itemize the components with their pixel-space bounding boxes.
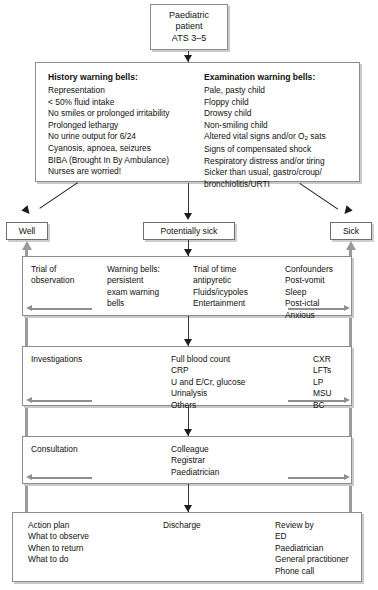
warning-bells-panel: History warning bells: Representation < … xyxy=(35,62,360,182)
arrowhead-top-to-warnings-icon xyxy=(184,55,192,62)
stage-line: antipyretic xyxy=(193,275,288,286)
stage2-exit-left-arrow-icon xyxy=(26,397,32,403)
stage-investigations-box: Investigations Full blood count CRP U an… xyxy=(22,346,352,406)
discharge-column: Discharge xyxy=(163,520,273,531)
examination-item: Drowsy child xyxy=(204,108,364,120)
review-by-column: Review by ED Paediatrician General pract… xyxy=(275,520,378,577)
stage-line: U and E/Cr, glucose xyxy=(171,377,311,388)
stage-line: Confounders xyxy=(285,264,355,275)
stage-line: General practitioner xyxy=(275,554,378,565)
examination-warning-bells-title: Examination warning bells: xyxy=(204,71,364,83)
history-warning-bells-column: History warning bells: Representation < … xyxy=(48,71,223,178)
history-item: Representation xyxy=(48,85,223,97)
stage-line: Trial of xyxy=(31,264,109,275)
stage-observation-column-4: Confounders Post-vomit Sleep Post-ictal … xyxy=(285,264,355,321)
top-node-line1: Paediatric xyxy=(169,10,209,22)
top-node-line3: ATS 3–5 xyxy=(172,33,206,45)
stage-investigations-column-1: Investigations xyxy=(31,354,141,365)
examination-item-o2-sats: Altered vital signs and/or O2 sats xyxy=(204,131,364,144)
node-potentially-sick-label: Potentially sick xyxy=(144,223,234,239)
stage-line: Post-vomit xyxy=(285,275,355,286)
stage-consultation-column-1: Consultation xyxy=(31,444,141,455)
stage1-exit-left-arrow-icon xyxy=(26,305,32,311)
stage1-exit-right-arrow-icon xyxy=(344,305,350,311)
arrowhead-pot-to-stage1-icon xyxy=(184,249,192,256)
node-potentially-sick[interactable]: Potentially sick xyxy=(143,222,235,240)
arrowhead-to-potentially-sick-icon xyxy=(184,213,192,220)
examination-item: bronchiolitis/URTI xyxy=(204,179,364,191)
node-well-label: Well xyxy=(7,223,47,239)
stage-line: MSU xyxy=(313,388,363,399)
stage1-exit-left-line xyxy=(30,308,92,310)
stage-observation-column-1: Trial of observation xyxy=(31,264,109,287)
stage-line: Paediatrician xyxy=(275,543,378,554)
stage-line: Discharge xyxy=(163,520,273,531)
examination-item: Respiratory distress and/or tiring xyxy=(204,156,364,168)
stage-observation-column-2: Warning bells: persistent exam warning b… xyxy=(107,264,192,310)
stage3-exit-left-line xyxy=(30,477,92,479)
history-item: < 50% fluid intake xyxy=(48,97,223,109)
stage-line: LP xyxy=(313,377,363,388)
stage-investigations-column-3: CXR LFTs LP MSU BC xyxy=(313,354,363,411)
stage-line: Action plan xyxy=(28,520,158,531)
stage-line: What to do xyxy=(28,554,158,565)
arrowhead-rail-left-up-icon xyxy=(22,241,32,250)
arrowhead-to-well-icon xyxy=(21,205,32,216)
stage2-exit-left-line xyxy=(30,400,92,402)
stage3-exit-right-line xyxy=(288,477,346,479)
stage-investigations-column-2: Full blood count CRP U and E/Cr, glucose… xyxy=(171,354,311,411)
stage-line: persistent xyxy=(107,275,192,286)
stage3-exit-right-arrow-icon xyxy=(344,474,350,480)
node-well[interactable]: Well xyxy=(6,222,48,240)
node-sick-label: Sick xyxy=(331,223,371,239)
history-item: BIBA (Brought In By Ambulance) xyxy=(48,155,223,167)
stage-line: What to observe xyxy=(28,531,158,542)
stage-line: Sleep xyxy=(285,287,355,298)
stage-line: Full blood count xyxy=(171,354,311,365)
stage-line: Fluids/icypoles xyxy=(193,287,288,298)
arrowhead-stage1-to-stage2-icon xyxy=(184,339,192,346)
history-item: No smiles or prolonged irritability xyxy=(48,108,223,120)
stage-line: ED xyxy=(275,531,378,542)
examination-item: Pale, pasty child xyxy=(204,85,364,97)
stage-consultation-column-2: Colleague Registrar Paediatrician xyxy=(171,444,311,478)
stage-observation-column-3: Trial of time antipyretic Fluids/icypole… xyxy=(193,264,288,310)
stage-line: Warning bells: xyxy=(107,264,192,275)
stage-line: LFTs xyxy=(313,365,363,376)
history-warning-bells-title: History warning bells: xyxy=(48,71,223,83)
arrowhead-rail-right-up-icon xyxy=(346,241,356,250)
history-item: Cyanosis, apnoea, seizures xyxy=(48,143,223,155)
stage3-exit-left-arrow-icon xyxy=(26,474,32,480)
stage-line: Anxious xyxy=(285,310,355,321)
history-item: Nurses are worried! xyxy=(48,166,223,178)
stage-line: Urinalysis xyxy=(171,388,311,399)
stage-line: Review by xyxy=(275,520,378,531)
stage-line: Investigations xyxy=(31,354,141,365)
connector-to-potentially-sick xyxy=(188,183,189,216)
node-paediatric-patient[interactable]: Paediatric patient ATS 3–5 xyxy=(150,4,228,50)
action-plan-column: Action plan What to observe When to retu… xyxy=(28,520,158,566)
stage-observation-box: Trial of observation Warning bells: pers… xyxy=(22,256,352,316)
examination-item: Floppy child xyxy=(204,97,364,109)
stage-line: Registrar xyxy=(171,455,311,466)
stage-line: CRP xyxy=(171,365,311,376)
stage-action-plan-box: Action plan What to observe When to retu… xyxy=(12,512,362,582)
examination-warning-bells-column: Examination warning bells: Pale, pasty c… xyxy=(204,71,364,190)
stage-line: observation xyxy=(31,275,109,286)
stage2-exit-right-arrow-icon xyxy=(344,397,350,403)
stage2-exit-right-line xyxy=(288,400,346,402)
stage-line: exam warning xyxy=(107,287,192,298)
examination-item: Non-smiling child xyxy=(204,120,364,132)
arrowhead-to-sick-icon xyxy=(341,205,352,216)
stage-line: bells xyxy=(107,298,192,309)
stage-line: Phone call xyxy=(275,566,378,577)
stage-line: Colleague xyxy=(171,444,311,455)
stage-line: Entertainment xyxy=(193,298,288,309)
arrowhead-stage2-to-stage3-icon xyxy=(184,429,192,436)
top-node-line2: patient xyxy=(175,21,202,33)
examination-item: Signs of compensated shock xyxy=(204,144,364,156)
stage-line: CXR xyxy=(313,354,363,365)
connector-to-well xyxy=(39,182,78,209)
node-sick[interactable]: Sick xyxy=(330,222,372,240)
history-item: Prolonged lethargy xyxy=(48,120,223,132)
